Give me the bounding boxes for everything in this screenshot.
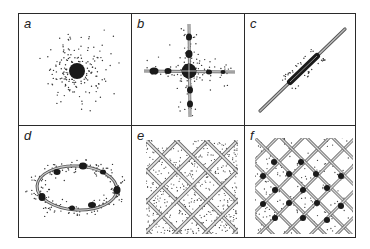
panel-a: a	[19, 14, 132, 126]
cross-lines-illustration	[132, 14, 245, 126]
panel-d: d	[19, 126, 132, 238]
panel-label-c: c	[250, 16, 257, 31]
panel-c: c	[245, 14, 358, 126]
point-cluster-illustration	[19, 14, 132, 126]
panel-label-d: d	[24, 128, 31, 143]
panel-b: b	[132, 14, 245, 126]
loop-illustration	[19, 126, 132, 238]
panel-label-b: b	[137, 16, 144, 31]
panel-label-a: a	[24, 16, 31, 31]
diagonal-line-illustration	[245, 14, 358, 126]
lattice-nodes-illustration	[245, 126, 358, 238]
panel-label-e: e	[137, 128, 144, 143]
lattice-network-illustration	[132, 126, 245, 238]
figure-grid: a b c	[18, 13, 356, 238]
panel-f: f	[245, 126, 358, 238]
panel-e: e	[132, 126, 245, 238]
panel-label-f: f	[250, 128, 254, 143]
